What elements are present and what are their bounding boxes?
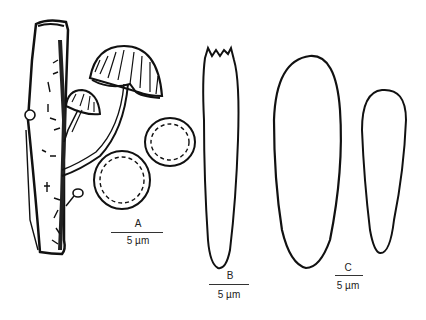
twig-drawing	[25, 20, 68, 254]
panel-c-scale-label: 5 µm	[328, 280, 368, 291]
panel-c-scale-bar	[335, 275, 363, 276]
spore-right	[145, 118, 195, 166]
primordium-drawing	[66, 189, 83, 206]
panel-a-scale-bar	[111, 232, 163, 233]
panel-a-scale-label: 5 µm	[118, 235, 158, 246]
panel-c-label: C	[338, 262, 358, 273]
small-clavate-cell	[362, 90, 406, 253]
large-clavate-cell	[274, 56, 341, 268]
cheilocystidium-drawing	[203, 48, 238, 268]
panel-a-label: A	[128, 218, 148, 229]
figure-illustration	[0, 0, 426, 320]
small-mushroom-drawing	[64, 90, 100, 142]
panel-b-scale-label: 5 µm	[209, 289, 249, 300]
spore-left	[94, 151, 150, 209]
panel-b-label: B	[220, 270, 240, 281]
panel-b-scale-bar	[209, 284, 249, 285]
